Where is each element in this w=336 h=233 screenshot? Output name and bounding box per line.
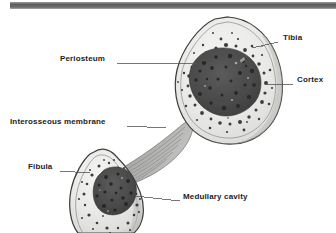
label-tibia: Tibia <box>283 33 302 43</box>
tibia-cross-section <box>175 17 283 147</box>
anatomy-figure: Tibia Cortex Periosteum Interosseous mem… <box>0 0 336 233</box>
header-rule <box>10 2 336 9</box>
label-cortex: Cortex <box>297 75 323 85</box>
label-fibula: Fibula <box>28 162 52 172</box>
label-medullary-cavity: Medullary cavity <box>183 192 248 202</box>
leader-line-interosseous-membrane <box>127 126 166 128</box>
label-periosteum: Periosteum <box>60 54 105 64</box>
label-interosseous-membrane: Interosseous membrane <box>10 117 106 127</box>
